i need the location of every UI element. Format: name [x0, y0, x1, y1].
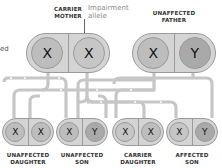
mother-chromosome-left: X: [27, 34, 68, 72]
x-chromosome: X: [31, 122, 51, 142]
chromosome-slot-right: Y: [192, 119, 218, 145]
unaffected-daughter-label: UNAFFECTED DAUGHTER: [0, 152, 56, 165]
carrier-daughter-chromosome-pair: X X: [112, 118, 164, 146]
mother-label: CARRIER MOTHER: [44, 6, 92, 19]
affected-son-chromosome-pair: X Y: [166, 118, 218, 146]
father-label-line1: UNAFFECTED: [146, 10, 202, 17]
chromosome-slot-right: Y: [82, 119, 108, 145]
father-chromosome-pair: X Y: [132, 33, 216, 73]
chromosome-slot-right: X: [138, 119, 164, 145]
chromosome-slot-left: X: [57, 119, 82, 145]
x-chromosome: X: [141, 122, 161, 142]
label-line2: SON: [54, 159, 110, 166]
y-chromosome: Y: [195, 122, 215, 142]
x-chromosome: X: [59, 122, 79, 142]
x-chromosome: X: [137, 37, 169, 69]
label-line2: DAUGHTER: [0, 159, 56, 166]
y-chromosome: Y: [179, 37, 211, 69]
label-line1: CARRIER: [110, 152, 166, 159]
carrier-daughter-label: CARRIER DAUGHTER: [110, 152, 166, 165]
father-chromosome-left: X: [133, 34, 174, 72]
chromosome-slot-right: X: [28, 119, 54, 145]
label-line2: DAUGHTER: [110, 159, 166, 166]
annotation-line1: Impairment: [88, 4, 129, 12]
annotation-line2: allele: [88, 12, 129, 20]
father-label-line2: FATHER: [146, 17, 202, 24]
impairment-allele-annotation: Impairment allele: [88, 4, 129, 20]
mother-chromosome-right: X: [68, 34, 110, 72]
chromosome-slot-left: X: [3, 119, 28, 145]
father-label: UNAFFECTED FATHER: [146, 10, 202, 23]
label-line1: UNAFFECTED: [54, 152, 110, 159]
chromosome-slot-left: X: [167, 119, 192, 145]
impaired-x-chromosome: X: [73, 37, 105, 69]
label-line1: UNAFFECTED: [0, 152, 56, 159]
x-chromosome: X: [5, 122, 25, 142]
unaffected-daughter-chromosome-pair: X X: [2, 118, 54, 146]
chromosome-slot-left: X: [113, 119, 138, 145]
unaffected-son-label: UNAFFECTED SON: [54, 152, 110, 165]
impaired-x-chromosome: X: [169, 122, 189, 142]
unaffected-son-chromosome-pair: X Y: [56, 118, 108, 146]
mother-chromosome-pair: X X: [26, 33, 110, 73]
mother-label-line1: CARRIER: [44, 6, 92, 13]
impaired-x-chromosome: X: [115, 122, 135, 142]
father-chromosome-right: Y: [174, 34, 216, 72]
cropped-text-fragment: ed: [0, 45, 9, 53]
affected-son-label: AFFECTED SON: [164, 152, 220, 165]
label-line1: AFFECTED: [164, 152, 220, 159]
y-chromosome: Y: [85, 122, 105, 142]
x-chromosome: X: [31, 37, 63, 69]
label-line2: SON: [164, 159, 220, 166]
